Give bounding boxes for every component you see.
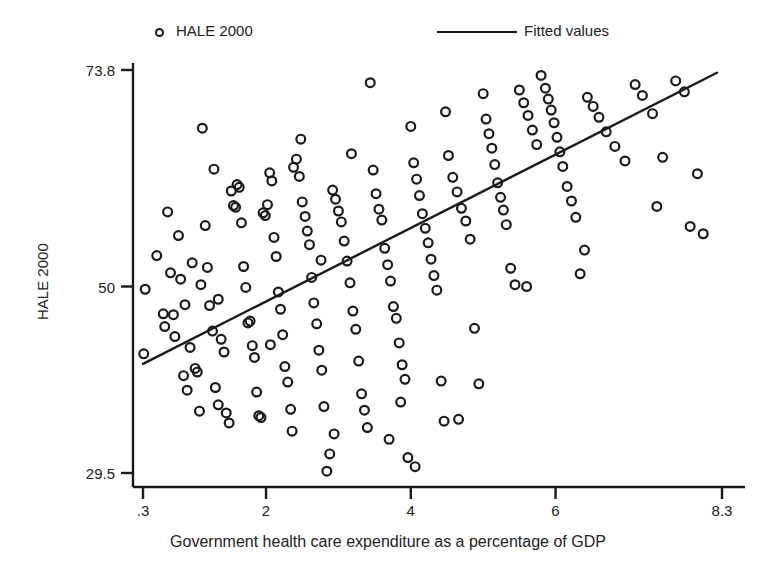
scatter-point bbox=[152, 251, 161, 260]
scatter-point bbox=[211, 383, 220, 392]
scatter-point bbox=[369, 166, 378, 175]
scatter-point bbox=[686, 222, 695, 231]
scatter-point bbox=[454, 415, 463, 424]
scatter-point bbox=[392, 314, 401, 323]
scatter-point bbox=[621, 157, 630, 166]
scatter-point bbox=[524, 111, 533, 120]
scatter-point bbox=[314, 346, 323, 355]
scatter-point bbox=[652, 202, 661, 211]
scatter-point bbox=[496, 193, 505, 202]
scatter-point bbox=[440, 417, 449, 426]
scatter-point bbox=[331, 195, 340, 204]
scatter-point bbox=[631, 80, 640, 89]
scatter-point bbox=[205, 301, 214, 310]
fitted-values-line bbox=[143, 73, 717, 364]
scatter-point bbox=[346, 278, 355, 287]
scatter-point bbox=[544, 95, 553, 104]
scatter-point bbox=[411, 462, 420, 471]
scatter-point bbox=[490, 160, 499, 169]
scatter-point bbox=[366, 78, 375, 87]
x-tick-label: 6 bbox=[551, 502, 559, 519]
scatter-point bbox=[380, 244, 389, 253]
scatter-point bbox=[571, 213, 580, 222]
scatter-point bbox=[375, 205, 384, 214]
scatter-point bbox=[519, 98, 528, 107]
scatter-point bbox=[337, 218, 346, 227]
scatter-point bbox=[170, 332, 179, 341]
scatter-point bbox=[638, 91, 647, 100]
scatter-point bbox=[176, 275, 185, 284]
scatter-point bbox=[309, 298, 318, 307]
scatter-point bbox=[448, 173, 457, 182]
scatter-point bbox=[553, 133, 562, 142]
scatter-point bbox=[583, 93, 592, 102]
plot-canvas bbox=[0, 0, 776, 578]
scatter-points-group bbox=[139, 71, 707, 476]
scatter-point bbox=[401, 375, 410, 384]
y-tick-label: 29.5 bbox=[55, 465, 115, 482]
scatter-point bbox=[198, 124, 207, 133]
scatter-point bbox=[595, 113, 604, 122]
y-axis-ticks bbox=[121, 70, 133, 473]
scatter-point bbox=[506, 264, 515, 273]
legend-label-fitted-values: Fitted values bbox=[524, 22, 609, 39]
scatter-point bbox=[479, 89, 488, 98]
x-tick-label: 8.3 bbox=[712, 502, 733, 519]
scatter-point bbox=[348, 307, 357, 316]
scatter-point bbox=[203, 263, 212, 272]
scatter-point bbox=[437, 377, 446, 386]
scatter-point bbox=[237, 218, 246, 227]
scatter-point bbox=[424, 238, 433, 247]
y-tick-label: 50 bbox=[55, 278, 115, 295]
scatter-point bbox=[418, 209, 427, 218]
scatter-point bbox=[283, 378, 292, 387]
scatter-point bbox=[396, 398, 405, 407]
scatter-point bbox=[298, 198, 307, 207]
x-tick-label: 4 bbox=[407, 502, 415, 519]
scatter-point bbox=[188, 258, 197, 267]
scatter-point bbox=[163, 208, 172, 217]
scatter-point bbox=[248, 341, 257, 350]
scatter-point bbox=[220, 348, 229, 357]
scatter-point bbox=[648, 109, 657, 118]
scatter-point bbox=[241, 283, 250, 292]
scatter-point bbox=[195, 407, 204, 416]
scatter-point bbox=[522, 282, 531, 291]
scatter-point bbox=[567, 197, 576, 206]
legend-line-icon bbox=[437, 31, 517, 33]
scatter-point bbox=[412, 175, 421, 184]
scatter-point bbox=[474, 379, 483, 388]
scatter-point bbox=[406, 122, 415, 131]
scatter-point bbox=[470, 324, 479, 333]
scatter-point bbox=[541, 84, 550, 93]
x-tick-label: .3 bbox=[137, 502, 150, 519]
scatter-point bbox=[267, 177, 276, 186]
scatter-point bbox=[444, 151, 453, 160]
scatter-point bbox=[317, 366, 326, 375]
scatter-point bbox=[280, 362, 289, 371]
scatter-point bbox=[201, 221, 210, 230]
x-axis-ticks bbox=[143, 487, 722, 499]
scatter-point bbox=[487, 144, 496, 153]
scatter-point bbox=[320, 402, 329, 411]
scatter-point bbox=[395, 339, 404, 348]
scatter-point bbox=[550, 118, 559, 127]
scatter-point bbox=[347, 149, 356, 158]
scatter-point bbox=[276, 305, 285, 314]
scatter-point bbox=[225, 419, 234, 428]
scatter-point bbox=[576, 269, 585, 278]
scatter-point bbox=[197, 280, 206, 289]
scatter-point bbox=[351, 325, 360, 334]
scatter-point bbox=[532, 140, 541, 149]
scatter-point bbox=[303, 227, 312, 236]
scatter-point bbox=[330, 429, 339, 438]
scatter-point bbox=[272, 252, 281, 261]
scatter-point bbox=[139, 349, 148, 358]
scatter-point bbox=[141, 285, 150, 294]
scatter-point bbox=[301, 212, 310, 221]
scatter-point bbox=[292, 155, 301, 164]
scatter-point bbox=[322, 467, 331, 476]
scatter-point bbox=[363, 423, 372, 432]
scatter-point bbox=[183, 386, 192, 395]
scatter-point bbox=[174, 231, 183, 240]
